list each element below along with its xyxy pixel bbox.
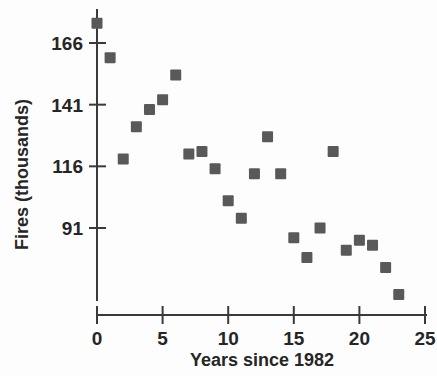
data-point — [354, 235, 365, 246]
y-tick-label-91: 91 — [62, 218, 84, 239]
data-point — [157, 94, 168, 105]
data-point — [92, 18, 103, 29]
data-point — [223, 195, 234, 206]
x-axis-title: Years since 1982 — [190, 350, 334, 370]
x-tick-label-25: 25 — [414, 328, 436, 349]
y-tick-label-141: 141 — [51, 95, 83, 116]
data-point — [144, 104, 155, 115]
data-point — [275, 168, 286, 179]
data-point — [183, 149, 194, 160]
x-tick-label-15: 15 — [283, 328, 305, 349]
x-tick-label-5: 5 — [157, 328, 168, 349]
data-point — [118, 153, 129, 164]
data-point — [236, 213, 247, 224]
data-point — [315, 223, 326, 234]
data-point — [380, 262, 391, 273]
x-tick-label-10: 10 — [218, 328, 239, 349]
data-point — [393, 289, 404, 300]
y-axis-tick-labels: 91116141166 — [51, 33, 83, 239]
data-point — [301, 252, 312, 263]
data-point — [341, 245, 352, 256]
y-axis-title: Fires (thousands) — [12, 99, 32, 250]
data-point — [288, 232, 299, 243]
data-point — [196, 146, 207, 157]
data-point — [170, 70, 181, 81]
scatter-plot-figure: 91116141166 0510152025 Fires (thousands)… — [0, 0, 437, 376]
y-tick-label-166: 166 — [51, 33, 83, 54]
x-axis-tick-labels: 0510152025 — [92, 328, 436, 349]
x-tick-label-20: 20 — [349, 328, 370, 349]
data-point-markers — [92, 18, 405, 300]
y-tick-label-116: 116 — [52, 156, 83, 177]
data-point — [262, 131, 273, 142]
data-point — [367, 240, 378, 251]
data-point — [249, 168, 260, 179]
data-point — [210, 163, 221, 174]
data-point — [105, 52, 116, 63]
plot-canvas: 91116141166 0510152025 Fires (thousands)… — [0, 0, 437, 376]
x-tick-label-0: 0 — [92, 328, 103, 349]
data-point — [131, 121, 142, 132]
data-point — [328, 146, 339, 157]
